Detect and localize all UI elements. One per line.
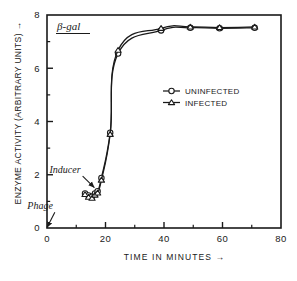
svg-text:0: 0 [44,233,50,244]
x-axis-title: TIME IN MINUTES → [0,252,297,262]
x-axis-title-text: TIME IN MINUTES → [72,252,225,262]
axis-ticks [47,42,252,228]
beta-gal-enzyme-activity-chart: 02040608002468 InducerPhage UNINFECTEDIN… [0,0,297,281]
svg-text:4: 4 [34,116,40,127]
svg-text:Inducer: Inducer [49,164,81,175]
svg-text:INFECTED: INFECTED [185,99,227,108]
svg-text:40: 40 [158,233,169,244]
chart-title-text: β-gal [56,20,80,32]
legend-item-infected: INFECTED [163,99,227,108]
annotation-phage: Phage [26,200,55,228]
svg-text:6: 6 [34,63,40,74]
svg-text:80: 80 [275,233,286,244]
data-series-layer [82,24,258,200]
svg-text:60: 60 [217,233,228,244]
svg-text:8: 8 [34,9,40,20]
figure-caption [0,272,297,281]
chart-legend: UNINFECTEDINFECTED [163,87,240,108]
svg-text:20: 20 [100,233,111,244]
chart-title: β-gal [56,20,90,34]
series-uninfected [82,25,257,199]
svg-text:2: 2 [34,169,40,180]
annotation-inducer: Inducer [49,164,95,188]
legend-item-uninfected: UNINFECTED [163,87,240,96]
series-infected [82,24,258,200]
axis-tick-labels: 02040608002468 [34,9,286,244]
svg-text:Phage: Phage [26,200,53,211]
svg-text:UNINFECTED: UNINFECTED [185,87,240,96]
y-axis-title: ENZYME ACTIVITY (ARBITRARY UNITS) → [13,3,23,223]
svg-text:0: 0 [34,222,40,233]
